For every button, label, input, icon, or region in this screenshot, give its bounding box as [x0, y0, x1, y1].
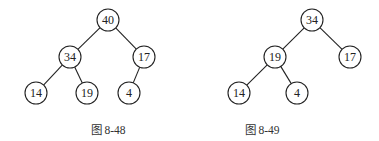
- tree-edge: [247, 65, 267, 85]
- tree-figure-2: 341917144: [228, 9, 361, 104]
- node-label: 17: [344, 50, 356, 64]
- tree-diagram-canvas: 40341714194341917144: [0, 0, 379, 141]
- node-label: 4: [126, 86, 132, 100]
- tree-edge: [75, 67, 83, 83]
- node-label: 40: [102, 13, 114, 27]
- tree-figure-1: 40341714194: [25, 9, 155, 104]
- tree-node: 40: [97, 9, 119, 31]
- node-label: 19: [81, 86, 93, 100]
- tree-node: 34: [301, 9, 323, 31]
- figure-caption: 图 8-48: [91, 121, 126, 137]
- tree-node: 14: [25, 82, 47, 104]
- node-label: 14: [233, 86, 245, 100]
- node-label: 4: [294, 86, 300, 100]
- tree-node: 4: [118, 82, 140, 104]
- tree-node: 17: [339, 46, 361, 68]
- node-label: 19: [269, 50, 281, 64]
- node-label: 34: [64, 50, 76, 64]
- tree-edge: [44, 65, 63, 85]
- figure-caption: 图 8-49: [245, 121, 280, 137]
- node-label: 17: [138, 50, 150, 64]
- tree-node: 34: [59, 46, 81, 68]
- tree-edge: [133, 67, 140, 83]
- tree-node: 14: [228, 82, 250, 104]
- node-label: 14: [30, 86, 42, 100]
- tree-edge: [281, 66, 292, 83]
- tree-edge: [78, 28, 100, 50]
- tree-node: 4: [286, 82, 308, 104]
- tree-node: 19: [264, 46, 286, 68]
- tree-edge: [320, 28, 342, 50]
- node-label: 34: [306, 13, 318, 27]
- tree-edge: [116, 28, 137, 49]
- tree-node: 19: [76, 82, 98, 104]
- tree-node: 17: [133, 46, 155, 68]
- tree-edge: [283, 28, 304, 49]
